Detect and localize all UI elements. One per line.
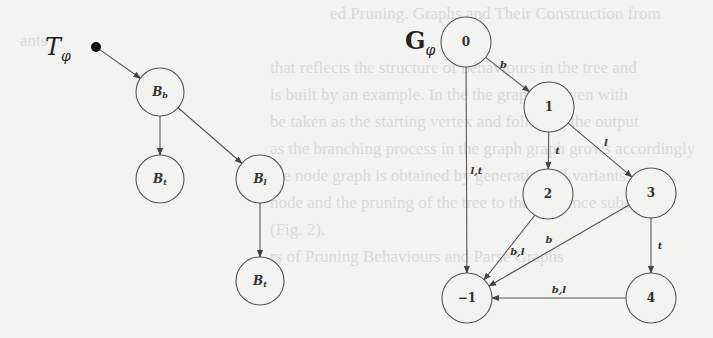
graph-node-label: 2 xyxy=(544,187,552,201)
graph-edge-0-m1 xyxy=(466,67,467,273)
edge-label: t xyxy=(555,145,560,156)
tree-root-dot xyxy=(91,42,101,52)
graph-node-m1: −1 xyxy=(442,273,492,323)
diagram-canvas: Tφ BbBtBlBt Gφ bl,ttlb,lbtb,l 0123−14 xyxy=(0,0,713,338)
edge-label: b,l xyxy=(510,246,524,258)
tree-edge xyxy=(178,108,242,163)
tree-node-Bt1: Bt xyxy=(136,155,184,203)
graph-title: Gφ xyxy=(405,26,436,58)
graph-edge-1-3 xyxy=(568,123,632,177)
graph-node-2: 2 xyxy=(523,169,573,219)
graph-node-4: 4 xyxy=(626,273,676,323)
graph-node-label: 3 xyxy=(647,186,655,200)
edge-label: b xyxy=(546,234,553,245)
parse-graph: Gφ bl,ttlb,lbtb,l 0123−14 xyxy=(405,17,676,323)
edge-label: t xyxy=(658,240,663,251)
edge-label: l xyxy=(604,137,608,148)
tree-node-Bt2: Bt xyxy=(236,257,284,305)
graph-node-0: 0 xyxy=(441,17,491,67)
tree-node-Bb: Bb xyxy=(136,68,184,116)
tree-title: Tφ xyxy=(45,33,71,64)
tree-edge xyxy=(100,50,140,78)
graph-node-label: 1 xyxy=(545,100,553,114)
tree-node-Bl: Bl xyxy=(236,155,284,203)
graph-node-label: 0 xyxy=(462,35,470,49)
graph-edge-0-1 xyxy=(486,57,530,91)
edge-label: l,t xyxy=(471,165,483,177)
graph-node-label: 4 xyxy=(647,291,655,305)
graph-node-label: −1 xyxy=(458,291,476,305)
edge-label: b xyxy=(500,59,507,70)
graph-node-1: 1 xyxy=(524,82,574,132)
behaviour-tree: Tφ BbBtBlBt xyxy=(45,33,284,305)
graph-node-3: 3 xyxy=(626,168,676,218)
edge-label: b,l xyxy=(552,284,566,296)
